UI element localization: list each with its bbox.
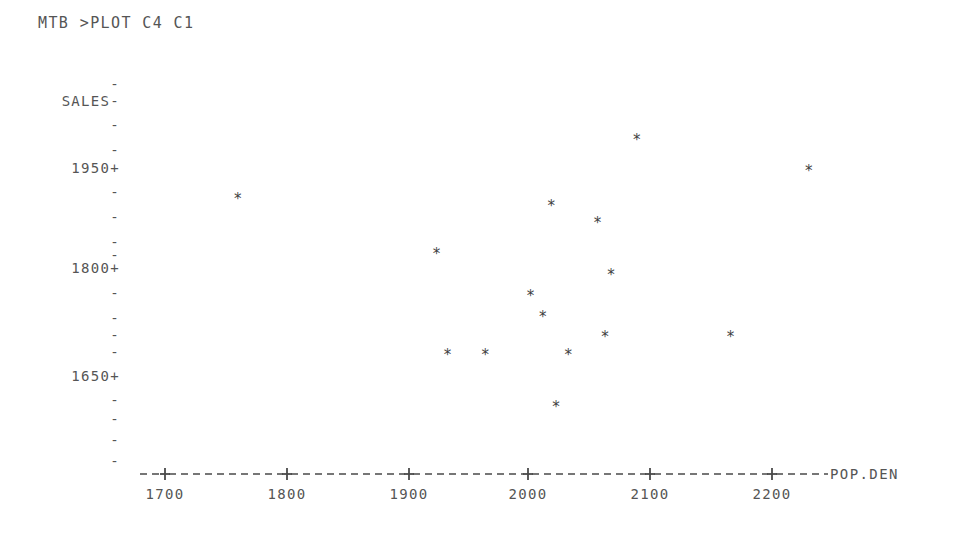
- y-axis-title: SALES-: [0, 93, 120, 109]
- data-point: *: [632, 133, 641, 148]
- y-axis-tick-minor: -: [0, 344, 120, 360]
- y-axis-tick-minor: -: [0, 392, 120, 408]
- data-point: *: [481, 348, 490, 363]
- data-point: *: [564, 348, 573, 363]
- y-axis-tick-minor: -: [0, 453, 120, 469]
- data-point: *: [600, 330, 609, 345]
- y-axis-tick-minor: -: [0, 117, 120, 133]
- data-point: *: [538, 310, 547, 325]
- data-point: *: [547, 199, 556, 214]
- x-axis-line: [0, 0, 958, 534]
- data-point: *: [526, 289, 535, 304]
- x-axis-tick-label: 1800: [247, 486, 327, 502]
- y-axis-tick-minor: -: [0, 209, 120, 225]
- data-point: *: [552, 400, 561, 415]
- data-point: *: [593, 216, 602, 231]
- y-axis-tick-minor: -: [0, 76, 120, 92]
- command-prompt-line: MTB >PLOT C4 C1: [38, 14, 194, 32]
- x-axis-tick-label: 2100: [610, 486, 690, 502]
- minitab-plot-output: MTB >PLOT C4 C1 -SALES---1950+----1800+-…: [0, 0, 958, 534]
- data-point: *: [233, 192, 242, 207]
- data-point: *: [804, 164, 813, 179]
- x-axis-title: POP.DEN: [830, 466, 899, 482]
- data-point: *: [443, 348, 452, 363]
- data-point: *: [607, 268, 616, 283]
- y-axis-tick-major: 1650+: [0, 368, 120, 384]
- y-axis-tick-minor: -: [0, 327, 120, 343]
- x-axis-tick-label: 2200: [732, 486, 812, 502]
- y-axis-tick-minor: -: [0, 411, 120, 427]
- data-point: *: [726, 330, 735, 345]
- y-axis-tick-major: 1800+: [0, 260, 120, 276]
- y-axis-tick-minor: -: [0, 432, 120, 448]
- y-axis-tick-minor: -: [0, 310, 120, 326]
- y-axis-tick-minor: -: [0, 142, 120, 158]
- x-axis-tick-label: 1700: [125, 486, 205, 502]
- y-axis-tick-minor: -: [0, 184, 120, 200]
- x-axis-tick-label: 1900: [369, 486, 449, 502]
- y-axis-tick-minor: -: [0, 285, 120, 301]
- x-axis-tick-label: 2000: [488, 486, 568, 502]
- y-axis-tick-major: 1950+: [0, 160, 120, 176]
- data-point: *: [432, 247, 441, 262]
